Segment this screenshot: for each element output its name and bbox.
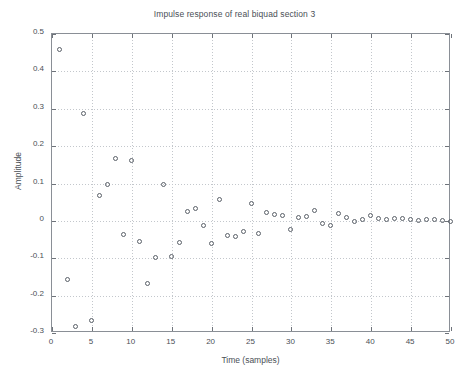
y-tick-label: 0.4 [4,64,44,73]
data-point-marker [440,218,445,223]
data-point-marker [137,239,142,244]
data-point-marker [424,217,429,222]
data-point-marker [312,208,317,213]
data-point-marker [129,158,134,163]
data-point-marker [288,227,293,232]
data-point-marker [241,229,246,234]
data-point-marker [217,197,222,202]
data-point-marker [233,234,238,239]
plot-area [51,33,450,332]
data-point-marker [392,216,397,221]
x-axis-tick [451,34,452,38]
data-point-marker [432,217,437,222]
data-point-marker [57,47,62,52]
x-tick-label: 35 [310,337,350,346]
data-point-marker [81,111,86,116]
data-point-marker [256,231,261,236]
y-tick-label: 0.5 [4,27,44,36]
x-axis-label: Time (samples) [51,355,450,365]
data-point-marker [448,219,453,224]
y-tick-label: -0.1 [4,251,44,260]
data-point-marker [145,281,150,286]
data-point-marker [153,255,158,260]
data-point-marker [368,213,373,218]
x-tick-label: 45 [390,337,430,346]
data-point-marker [89,318,94,323]
data-point-marker [177,240,182,245]
x-tick-label: 20 [191,337,231,346]
data-point-marker [344,215,349,220]
data-series-impulse-response [52,34,449,331]
data-point-marker [161,182,166,187]
y-axis-tick [445,333,449,334]
data-point-marker [113,156,118,161]
x-tick-label: 40 [350,337,390,346]
data-point-marker [280,213,285,218]
x-axis-tick [451,327,452,331]
data-point-marker [201,223,206,228]
x-tick-label: 10 [111,337,151,346]
data-point-marker [304,214,309,219]
y-tick-label: -0.2 [4,289,44,298]
data-point-marker [169,254,174,259]
data-point-marker [97,193,102,198]
x-tick-label: 0 [31,337,71,346]
y-tick-label: 0.3 [4,102,44,111]
data-point-marker [264,210,269,215]
y-axis-label: Amplitude [13,131,23,211]
data-point-marker [296,215,301,220]
data-point-marker [272,212,277,217]
data-point-marker [376,216,381,221]
data-point-marker [65,277,70,282]
y-tick-label: -0.3 [4,326,44,335]
data-point-marker [105,182,110,187]
figure-canvas: Impulse response of real biquad section … [0,0,469,379]
data-point-marker [384,217,389,222]
x-tick-label: 5 [71,337,111,346]
y-tick-label: 0.1 [4,177,44,186]
data-point-marker [185,209,190,214]
data-point-marker [249,201,254,206]
data-point-marker [328,223,333,228]
x-tick-label: 50 [430,337,469,346]
x-tick-label: 15 [151,337,191,346]
data-point-marker [121,232,126,237]
data-point-marker [209,241,214,246]
x-tick-label: 30 [270,337,310,346]
y-tick-label: 0 [4,214,44,223]
data-point-marker [352,219,357,224]
data-point-marker [408,217,413,222]
y-tick-label: 0.2 [4,139,44,148]
data-point-marker [336,211,341,216]
data-point-marker [360,217,365,222]
data-point-marker [400,216,405,221]
data-point-marker [193,206,198,211]
y-axis-tick [52,333,56,334]
data-point-marker [73,324,78,329]
data-point-marker [320,221,325,226]
data-point-marker [225,233,230,238]
page-title: Impulse response of real biquad section … [0,9,469,19]
x-tick-label: 25 [231,337,271,346]
data-point-marker [416,218,421,223]
